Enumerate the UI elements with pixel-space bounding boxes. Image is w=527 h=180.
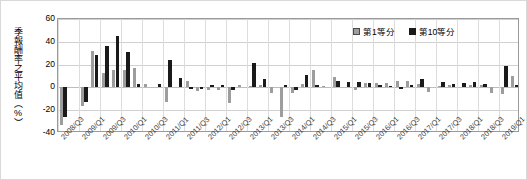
chart-figure: 季報酬率之平均值（%） 6040200-20-40 第1等分第10等分 2008…: [0, 0, 527, 180]
legend-item[interactable]: 第1等分: [353, 25, 395, 37]
chart-legend: 第1等分第10等分: [353, 25, 455, 37]
legend-label: 第1等分: [363, 25, 395, 37]
legend-label: 第10等分: [419, 25, 455, 37]
legend-swatch-icon: [409, 28, 416, 35]
legend-swatch-icon: [353, 28, 360, 35]
legend-item[interactable]: 第10等分: [409, 25, 455, 37]
